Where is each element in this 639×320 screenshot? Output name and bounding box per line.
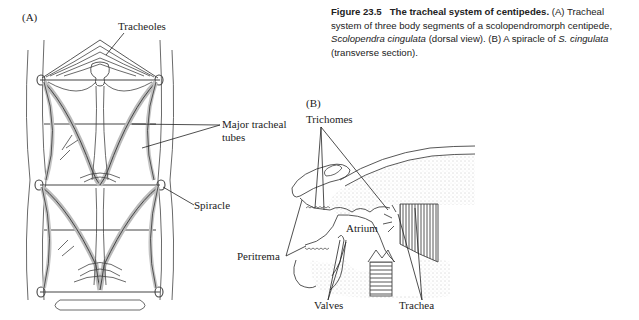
centipede-dorsal-diagram	[26, 40, 173, 310]
caption-a-species: Scolopendra cingulata	[331, 33, 426, 44]
callout-major-tracheal-tubes: Major tracheal tubes	[222, 118, 286, 144]
spiracle-section-diagram	[292, 146, 475, 299]
callout-tracheoles: Tracheoles	[118, 20, 166, 32]
panel-b-label: (B)	[306, 97, 321, 109]
caption-b-text-1: A spiracle of	[503, 33, 555, 44]
caption-b-species: S. cingulata	[558, 33, 608, 44]
panel-a-label: (A)	[22, 11, 37, 23]
callout-valves: Valves	[314, 299, 343, 311]
caption-b-text-2: (transverse section).	[331, 47, 418, 58]
callout-atrium: Atrium	[346, 222, 378, 234]
caption-a-text-2: (dorsal view).	[429, 33, 486, 44]
figure-number: Figure 23.5	[331, 6, 382, 17]
caption-a-label: (A)	[552, 6, 565, 17]
callout-peritrema: Peritrema	[237, 250, 280, 262]
caption-b-label: (B)	[488, 33, 501, 44]
callout-spiracle: Spiracle	[194, 199, 230, 211]
callout-major-tracheal-tubes-line1: Major tracheal	[222, 118, 286, 131]
figure-title: The tracheal system of centipedes.	[390, 6, 549, 17]
callout-trichomes: Trichomes	[306, 113, 353, 125]
callout-major-tracheal-tubes-line2: tubes	[222, 131, 286, 144]
figure-caption: Figure 23.5 The tracheal system of centi…	[331, 5, 631, 59]
callout-trachea: Trachea	[399, 299, 434, 311]
